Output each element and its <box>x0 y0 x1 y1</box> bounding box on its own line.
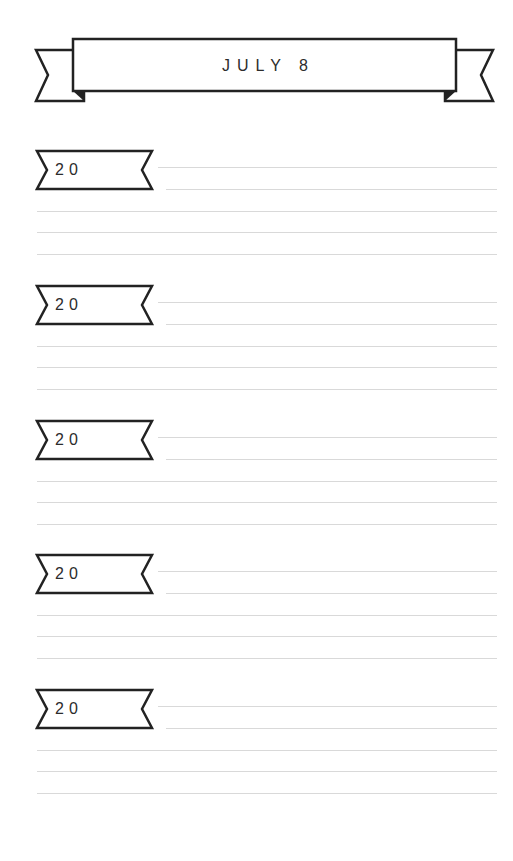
writing-line[interactable] <box>37 750 497 751</box>
year-label: 20 <box>55 553 83 595</box>
year-label: 20 <box>55 149 83 191</box>
writing-line[interactable] <box>37 793 497 794</box>
entry-block: 20 <box>0 284 513 404</box>
year-tag: 20 <box>35 419 155 461</box>
writing-line[interactable] <box>158 571 497 572</box>
year-tag-ribbon-icon <box>35 149 155 191</box>
writing-line[interactable] <box>37 636 497 637</box>
writing-line[interactable] <box>37 232 497 233</box>
year-label: 20 <box>55 688 83 730</box>
writing-line[interactable] <box>158 706 497 707</box>
year-tag: 20 <box>35 553 155 595</box>
writing-line[interactable] <box>166 324 497 325</box>
writing-line[interactable] <box>37 658 497 659</box>
year-tag-ribbon-icon <box>35 688 155 730</box>
year-tag: 20 <box>35 688 155 730</box>
year-tag-ribbon-icon <box>35 419 155 461</box>
writing-line[interactable] <box>166 459 497 460</box>
writing-line[interactable] <box>37 502 497 503</box>
writing-line[interactable] <box>37 524 497 525</box>
year-label: 20 <box>55 419 83 461</box>
year-tag-ribbon-icon <box>35 553 155 595</box>
year-tag: 20 <box>35 284 155 326</box>
writing-line[interactable] <box>158 437 497 438</box>
writing-line[interactable] <box>37 346 497 347</box>
year-label: 20 <box>55 284 83 326</box>
year-tag: 20 <box>35 149 155 191</box>
date-banner: JULY 8 <box>0 0 513 120</box>
writing-line[interactable] <box>158 167 497 168</box>
page-title: JULY 8 <box>73 39 457 92</box>
writing-line[interactable] <box>166 189 497 190</box>
entry-block: 20 <box>0 553 513 673</box>
writing-line[interactable] <box>158 302 497 303</box>
entry-block: 20 <box>0 419 513 539</box>
writing-line[interactable] <box>166 728 497 729</box>
entry-block: 20 <box>0 149 513 269</box>
writing-line[interactable] <box>37 481 497 482</box>
writing-line[interactable] <box>37 367 497 368</box>
writing-line[interactable] <box>37 254 497 255</box>
year-tag-ribbon-icon <box>35 284 155 326</box>
writing-line[interactable] <box>37 389 497 390</box>
writing-line[interactable] <box>37 771 497 772</box>
writing-line[interactable] <box>37 211 497 212</box>
writing-line[interactable] <box>166 593 497 594</box>
entry-block: 20 <box>0 688 513 808</box>
writing-line[interactable] <box>37 615 497 616</box>
